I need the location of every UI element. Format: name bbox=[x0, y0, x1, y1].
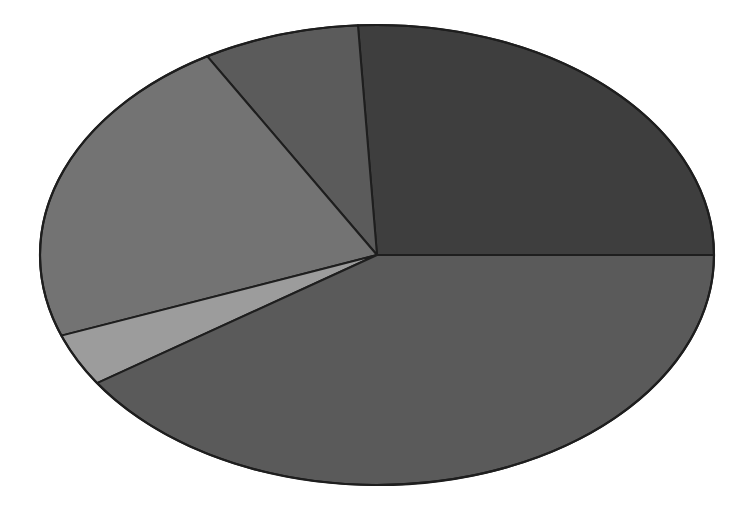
pie-chart bbox=[0, 0, 754, 515]
pie-slice-slice-a bbox=[358, 25, 714, 255]
pie-slices bbox=[40, 25, 714, 485]
